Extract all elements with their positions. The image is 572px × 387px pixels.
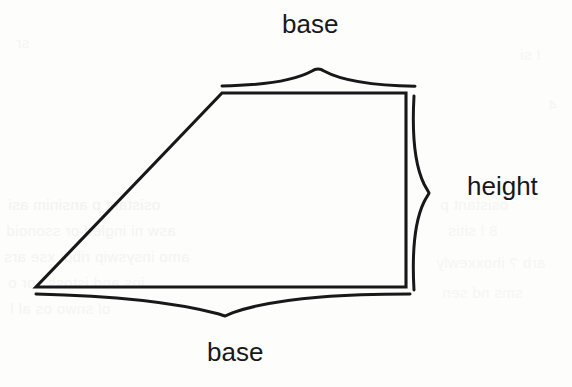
trapezoid-outline bbox=[36, 93, 406, 287]
bottom-base-brace-icon bbox=[36, 294, 410, 316]
figure-page: osistant p ansinim asiasw ni ingled or s… bbox=[0, 0, 572, 387]
label-base-top: base bbox=[282, 11, 338, 37]
right-height-brace-icon bbox=[413, 96, 429, 290]
label-height: height bbox=[467, 173, 538, 199]
top-base-brace-icon bbox=[222, 69, 415, 86]
label-base-bottom: base bbox=[207, 339, 263, 365]
